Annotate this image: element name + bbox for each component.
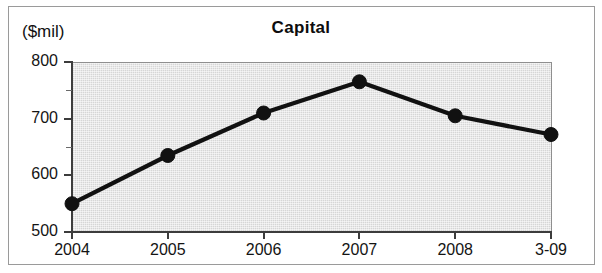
chart-figure: ($mil) Capital 500600700800 200420052006… (0, 0, 602, 273)
data-point-marker (161, 149, 175, 163)
data-point-marker (65, 197, 79, 211)
data-point-marker (544, 128, 558, 142)
data-point-marker (257, 106, 271, 120)
data-point-marker (448, 109, 462, 123)
capital-markers (65, 75, 558, 211)
data-point-marker (352, 75, 366, 89)
data-series-layer (0, 0, 602, 273)
capital-line (72, 82, 551, 204)
